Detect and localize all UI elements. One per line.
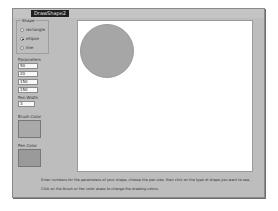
pen-width-label: Pen Width (18, 95, 38, 100)
radio-label: rectangle (26, 27, 45, 32)
brush-color-label: Brush Color (18, 114, 41, 119)
parameter-field-2[interactable]: 20 (18, 71, 38, 77)
radio-label: ellipse (26, 36, 39, 41)
drawn-ellipse (80, 24, 134, 78)
pen-width-field[interactable]: 3 (18, 101, 35, 107)
shape-group-label: Shape (21, 18, 36, 23)
drawing-canvas[interactable] (77, 20, 253, 172)
radio-line[interactable]: line (20, 45, 33, 50)
pen-color-label: Pen Color (18, 143, 37, 148)
radio-button-selected-icon[interactable] (20, 37, 24, 41)
app-window: DrawShape2 Shape rectangle ellipse line … (12, 8, 265, 198)
pen-color-swatch[interactable] (18, 149, 41, 167)
instruction-line-2: Click on the Brush or Pen color areas to… (41, 187, 159, 192)
parameters-label: Parameters (18, 57, 41, 62)
window-title: DrawShape2 (31, 10, 69, 17)
radio-ellipse[interactable]: ellipse (20, 36, 39, 41)
radio-button-icon[interactable] (20, 28, 24, 32)
instruction-line-1: Enter numbers for the parameters of your… (41, 178, 250, 183)
brush-color-swatch[interactable] (18, 120, 41, 138)
parameter-field-1[interactable]: 50 (18, 63, 38, 69)
parameter-field-3[interactable]: 150 (18, 79, 38, 85)
radio-label: line (26, 45, 33, 50)
radio-rectangle[interactable]: rectangle (20, 27, 45, 32)
radio-button-icon[interactable] (20, 46, 24, 50)
shape-groupbox: Shape rectangle ellipse line (16, 20, 49, 54)
parameter-field-4[interactable]: 150 (18, 87, 38, 93)
title-bar[interactable]: DrawShape2 (13, 9, 264, 18)
